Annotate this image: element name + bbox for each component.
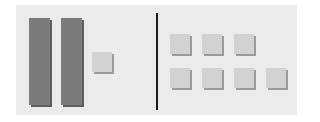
tens-rod-1 (29, 18, 50, 105)
unit-cube-r2-3 (234, 68, 254, 88)
unit-cube-r1-2 (202, 34, 222, 54)
tens-rod-2 (61, 18, 82, 105)
unit-cube-r1-1 (170, 34, 190, 54)
divider-line (156, 13, 158, 110)
unit-cube-r2-2 (202, 68, 222, 88)
unit-cube-left (92, 52, 112, 72)
unit-cube-r1-3 (234, 34, 254, 54)
unit-cube-r2-1 (170, 68, 190, 88)
unit-cube-r2-4 (266, 68, 286, 88)
